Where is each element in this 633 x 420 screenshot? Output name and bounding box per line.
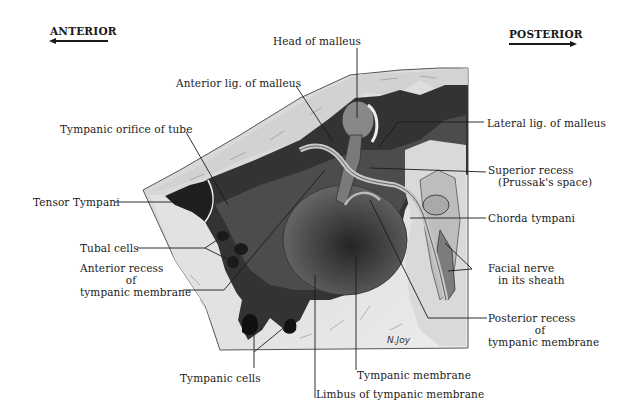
label-anterior-recess: Anterior recess of tympanic membrane [80, 262, 182, 298]
label-anterior-lig-malleus: Anterior lig. of malleus [176, 77, 301, 89]
label-posterior-recess-line3: tympanic membrane [488, 336, 592, 348]
label-facial-nerve-line2: in its sheath [488, 274, 565, 286]
anatomy-diagram: ANTERIOR POSTERIOR Head of malleus Anter… [0, 0, 633, 420]
artist-signature: N.Joy [387, 335, 410, 345]
label-anterior-recess-line3: tympanic membrane [80, 286, 182, 298]
label-superior-recess-line2: (Prussak's space) [488, 176, 592, 188]
anterior-arrow-icon [50, 36, 108, 46]
label-tensor-tympani: Tensor Tympani [33, 196, 120, 208]
label-superior-recess-line1: Superior recess [488, 164, 592, 176]
label-tubal-cells: Tubal cells [80, 242, 139, 254]
label-facial-nerve-line1: Facial nerve [488, 262, 565, 274]
label-lateral-lig-malleus: Lateral lig. of malleus [487, 117, 606, 129]
label-chorda-tympani: Chorda tympani [488, 212, 575, 224]
label-head-of-malleus: Head of malleus [273, 35, 361, 47]
posterior-arrow-icon [509, 39, 575, 49]
label-anterior-recess-line2: of [80, 274, 182, 286]
label-tympanic-membrane: Tympanic membrane [357, 369, 471, 381]
label-superior-recess: Superior recess (Prussak's space) [488, 164, 592, 188]
label-tympanic-cells: Tympanic cells [180, 372, 261, 384]
label-posterior-recess-line2: of [488, 324, 592, 336]
label-facial-nerve: Facial nerve in its sheath [488, 262, 565, 286]
label-posterior-recess-line1: Posterior recess [488, 312, 592, 324]
label-tympanic-orifice-of-tube: Tympanic orifice of tube [60, 123, 192, 135]
label-limbus-of-tympanic-membrane: Limbus of tympanic membrane [316, 388, 484, 400]
label-posterior-recess: Posterior recess of tympanic membrane [488, 312, 592, 348]
tympanic-illustration [0, 0, 633, 420]
label-anterior-recess-line1: Anterior recess [80, 262, 182, 274]
